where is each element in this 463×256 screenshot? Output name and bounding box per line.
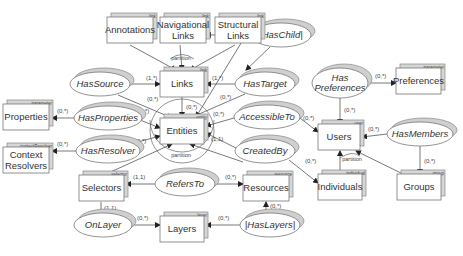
relationships-group: |HasChild|HasSourceHasTargetHasPreferenc…: [70, 19, 457, 237]
entity-label: Users: [327, 131, 352, 142]
relationship-label: Preferences: [314, 82, 365, 93]
entity-label: Groups: [403, 181, 434, 192]
relationship-hasresolver[interactable]: HasResolver: [76, 135, 144, 163]
cardinality-label: (1,1): [133, 174, 145, 180]
entity-label: Links: [172, 30, 194, 41]
cardinality-label: (0,*): [147, 96, 158, 102]
partition-label: partition: [171, 55, 191, 61]
relationship-label: |HasChild|: [259, 29, 302, 40]
relationship-hasproperties[interactable]: HasProperties: [74, 102, 146, 130]
entity-label: Context: [10, 149, 43, 160]
cardinality-label: (0,*): [225, 174, 236, 180]
cardinality-label: (0,*): [424, 158, 435, 164]
partition-label: partition: [342, 156, 362, 162]
entity-annotations[interactable]: linkAnnotations: [105, 13, 157, 43]
er-diagram: (1,*)(1,*)(1,*)(0,*)(0,*)(0,*)(0,*)(0,*)…: [0, 0, 463, 256]
entity-properties[interactable]: parameterProperties: [3, 100, 53, 130]
relationship-hastarget[interactable]: HasTarget: [235, 68, 299, 96]
cardinality-label: (0,*): [220, 94, 231, 100]
entity-label: Individuals: [318, 181, 363, 192]
cardinality-label: (0,*): [270, 203, 281, 209]
entity-layers[interactable]: layerLayers: [160, 212, 208, 242]
relationship-createdby[interactable]: CreatedBy: [235, 135, 299, 163]
relationship-label: CreatedBy: [243, 145, 289, 156]
connector-line: [362, 134, 387, 137]
entity-label: Resolvers: [5, 160, 47, 171]
entity-label: Entities: [166, 125, 197, 136]
entity-label: Links: [171, 78, 193, 89]
relationship-label: OnLayer: [85, 219, 122, 230]
entity-label: Layers: [168, 223, 197, 234]
relationship-label: RefersTo: [166, 178, 204, 189]
entity-preferences[interactable]: parameterPreferences: [393, 64, 445, 94]
relationship-hasmembers[interactable]: HasMembers: [387, 118, 457, 146]
cardinality-label: (0,*): [303, 115, 314, 121]
relationship-label: HasSource: [77, 78, 124, 89]
entity-label: Structural: [218, 19, 259, 30]
relationship-label: HasTarget: [243, 78, 287, 89]
cardinality-label: (0,*): [305, 158, 316, 164]
cardinality-label: (0,*): [368, 126, 379, 132]
connector-line: [130, 45, 176, 70]
cardinality-label: (0,*): [137, 215, 148, 221]
entity-individuals[interactable]: individualIndividuals: [318, 170, 366, 200]
relationship-label: HasResolver: [81, 145, 136, 156]
cardinality-label: (0,*): [186, 104, 197, 110]
cardinality-label: (1,*): [146, 75, 157, 81]
cardinality-label: (0,*): [57, 108, 68, 114]
entity-label: Navigational: [157, 19, 209, 30]
relationship-accessibleto[interactable]: AccessibleTo: [234, 101, 304, 129]
er-diagram-svg: (1,*)(1,*)(1,*)(0,*)(0,*)(0,*)(0,*)(0,*)…: [0, 0, 463, 256]
connector-line: [246, 47, 270, 70]
entity-selectors[interactable]: selectorSelectors: [79, 171, 128, 201]
cardinality-label: (0,*): [213, 111, 224, 117]
relationship-haspreferences[interactable]: HasPreferences: [312, 64, 372, 98]
partition-label: partition: [171, 152, 191, 158]
relationship-label: AccessibleTo: [238, 111, 295, 122]
relationship-onlayer[interactable]: OnLayer: [74, 209, 136, 237]
entity-label: Selectors: [82, 182, 122, 193]
entity-users[interactable]: userUsers: [318, 120, 364, 150]
cardinality-label: (0,*): [344, 107, 355, 113]
cardinality-label: (1,*): [212, 75, 223, 81]
entity-label: Annotations: [105, 24, 155, 35]
connector-line: [206, 118, 234, 126]
cardinality-label: (0,*): [57, 141, 68, 147]
entity-label: Links: [227, 30, 249, 41]
entity-groups[interactable]: groupGroups: [397, 170, 445, 200]
entity-entities[interactable]: entityEntities: [160, 114, 208, 144]
entity-label: Resources: [243, 182, 289, 193]
relationship-label: |HasLayers|: [245, 219, 295, 230]
entity-links[interactable]: linkLinks: [160, 67, 208, 97]
entity-contextresolvers[interactable]: contextResolverContextResolvers: [3, 143, 53, 173]
entity-label: Properties: [4, 111, 48, 122]
relationship-refersto[interactable]: RefersTo: [155, 168, 219, 196]
cardinality-label: (1,1): [211, 136, 223, 142]
cardinality-label: (0,*): [375, 73, 386, 79]
entity-navlinks[interactable]: linkNavigationalLinks: [157, 13, 210, 43]
relationship-label: HasMembers: [392, 128, 449, 139]
entity-resources[interactable]: resourceResources: [243, 171, 293, 201]
cardinality-label: (0,*): [218, 215, 229, 221]
entity-structlinks[interactable]: linkStructuralLinks: [215, 13, 265, 43]
relationship-label: HasProperties: [78, 112, 138, 123]
relationship-haslayers[interactable]: |HasLayers|: [240, 209, 304, 237]
relationship-hassource[interactable]: HasSource: [70, 68, 134, 96]
entity-label: Preferences: [393, 75, 444, 86]
connector-line: [190, 45, 235, 70]
